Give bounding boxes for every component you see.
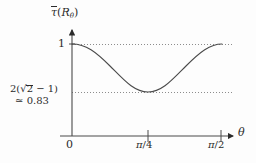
- denominator-2: 2: [218, 139, 224, 150]
- x-tick-label-pi-over-4: π/4: [136, 140, 152, 150]
- y-tick-label-one: 1: [58, 38, 65, 49]
- data-curve: [72, 44, 222, 92]
- x-axis-title: θ: [238, 127, 245, 138]
- pi-glyph: π: [208, 139, 215, 150]
- x-tick-label-pi-over-2: π/2: [208, 140, 224, 150]
- tau-overbar-glyph: τ: [51, 6, 57, 18]
- sqrt-icon: √2: [20, 84, 33, 94]
- denominator-4: 4: [146, 139, 152, 150]
- y-tick-label-minimum-exact: 2(√2 − 1): [2, 84, 66, 94]
- paren-close: ): [74, 6, 78, 19]
- y-tick-label-minimum: 2(√2 − 1) ≃ 0.83: [2, 84, 66, 106]
- x-tick-label-zero: 0: [66, 139, 73, 150]
- y-axis-title: τ(Rθ): [51, 6, 78, 20]
- R-glyph: R: [61, 6, 69, 19]
- y-tick-label-minimum-approx: ≃ 0.83: [2, 96, 66, 106]
- pi-glyph: π: [136, 139, 143, 150]
- figure-container: τ(Rθ) 1 2(√2 − 1) ≃ 0.83 0 π/4 π/2 θ: [0, 0, 256, 163]
